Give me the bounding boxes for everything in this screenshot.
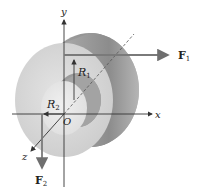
z-axis-label: z bbox=[21, 151, 28, 162]
stepped-cylinder-diagram: y x z O R1 R2 F1 F2 bbox=[0, 0, 199, 192]
origin-label: O bbox=[63, 116, 71, 127]
f1-label-main: F bbox=[178, 49, 186, 62]
f1-label-sub: 1 bbox=[186, 55, 190, 63]
f2-label-sub: 2 bbox=[43, 180, 47, 188]
y-axis-label: y bbox=[60, 6, 67, 17]
f1-label: F1 bbox=[178, 49, 190, 63]
f2-label-main: F bbox=[35, 174, 43, 187]
f2-label: F2 bbox=[35, 174, 47, 188]
r1-label-main: R bbox=[77, 66, 86, 79]
x-axis-label: x bbox=[155, 109, 161, 120]
r2-label-main: R bbox=[46, 98, 55, 111]
r2-label-sub: 2 bbox=[55, 104, 59, 112]
r1-label-sub: 1 bbox=[86, 72, 90, 80]
